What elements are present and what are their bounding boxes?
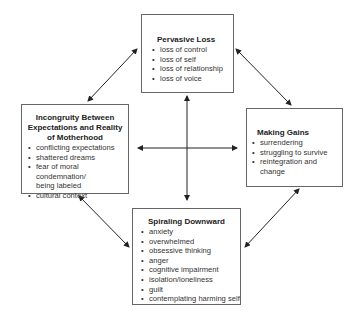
list-item: conflicting expectations [27,143,128,153]
node-items: surrendering struggling to survive reint… [251,138,342,176]
list-item: shattered dreams [27,153,128,163]
node-title: Pervasive Loss [151,35,233,45]
list-item: struggling to survive [251,148,342,158]
list-item: loss of voice [151,74,233,84]
arrow-top-right [236,49,291,105]
list-item: cultural context [27,191,128,201]
node-items: anxiety overwhelmed obsessive thinking a… [140,227,240,304]
list-item: guilt [140,285,240,295]
node-pervasive-loss: Pervasive Loss loss of control loss of s… [141,14,234,93]
list-item: loss of relationship [151,64,233,74]
node-incongruity: Incongruity Between Expectations and Rea… [21,104,129,194]
node-items: loss of control loss of self loss of rel… [151,45,233,83]
list-item: anxiety [140,227,240,237]
list-item: surrendering [251,138,342,148]
list-item: contemplating harming self [140,294,240,304]
list-item-continuation: being labeled [27,181,128,191]
title-line: Expectations and Reality [27,123,123,133]
list-item: isolation/loneliness [140,275,240,285]
title-line: of Motherhood [27,133,123,143]
arrow-left-bottom [79,196,129,247]
node-title: Spiraling Downward [140,217,240,227]
list-item: fear of moral condemnation/ [27,162,128,181]
node-making-gains: Making Gains surrendering struggling to … [246,108,343,187]
list-item: anger [140,256,240,266]
list-item-text: being labeled [36,181,81,190]
list-item: overwhelmed [140,237,240,247]
node-spiraling-downward: Spiraling Downward anxiety overwhelmed o… [132,208,241,305]
node-title: Incongruity Between Expectations and Rea… [27,113,128,143]
list-item: obsessive thinking [140,246,240,256]
list-item: reintegration and change [251,157,342,176]
title-line: Incongruity Between [27,113,123,123]
list-item: loss of self [151,55,233,65]
node-items: conflicting expectations shattered dream… [27,143,128,201]
list-item: loss of control [151,45,233,55]
arrow-top-left [88,49,137,101]
node-title: Making Gains [251,128,342,138]
list-item: cognitive impairment [140,265,240,275]
arrow-right-bottom [245,189,299,247]
